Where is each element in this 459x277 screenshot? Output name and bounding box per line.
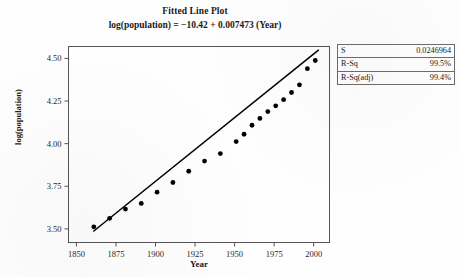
x-tick-label: 1925 <box>187 249 204 259</box>
data-point <box>258 116 263 121</box>
x-tick-label: 1850 <box>68 249 85 259</box>
data-point <box>234 139 239 144</box>
data-point <box>171 180 176 185</box>
y-tick-label: 4.50 <box>47 53 62 63</box>
y-axis-label: log(population) <box>13 77 23 157</box>
data-point <box>297 82 302 87</box>
y-tick-label: 4.00 <box>47 139 62 149</box>
data-point <box>281 97 286 102</box>
stats-value-s: 0.0246964 <box>416 46 451 56</box>
stats-value-rsq: 99.5% <box>430 59 451 69</box>
x-tick-label: 1975 <box>266 249 283 259</box>
stats-label-rsq: R-Sq <box>341 59 358 69</box>
x-tick-label: 2000 <box>305 249 322 259</box>
data-point <box>265 109 270 114</box>
y-tick-label: 4.25 <box>47 96 62 106</box>
data-point <box>202 159 207 164</box>
data-point <box>218 151 223 156</box>
x-tick-label: 1900 <box>147 249 164 259</box>
data-point <box>123 207 128 212</box>
data-point <box>242 132 247 137</box>
data-point <box>289 90 294 95</box>
data-point <box>155 190 160 195</box>
data-point <box>250 123 255 128</box>
statistics-box: S 0.0246964 R-Sq 99.5% R-Sq(adj) 99.4% <box>337 44 455 85</box>
x-tick-label: 1950 <box>226 249 243 259</box>
plot-area: 3.503.754.004.254.50 1850187519001925195… <box>0 0 459 277</box>
fitted-line-plot-svg: 3.503.754.004.254.50 1850187519001925195… <box>0 0 459 277</box>
chart-page: Fitted Line Plot log(population) = −10.4… <box>0 0 459 277</box>
data-point <box>107 216 112 221</box>
plot-frame <box>69 47 330 243</box>
data-point <box>305 66 310 71</box>
data-points <box>91 58 317 229</box>
data-point <box>139 201 144 206</box>
y-axis-ticks: 3.503.754.004.254.50 <box>47 53 69 233</box>
stats-label-rsq-adj: R-Sq(adj) <box>341 73 373 83</box>
stats-row-rsq-adj: R-Sq(adj) 99.4% <box>338 71 454 84</box>
stats-row-rsq: R-Sq 99.5% <box>338 57 454 70</box>
y-tick-label: 3.50 <box>47 224 62 234</box>
stats-value-rsq-adj: 99.4% <box>430 73 451 83</box>
y-tick-label: 3.75 <box>47 181 62 191</box>
fitted-line <box>94 50 319 231</box>
x-tick-label: 1875 <box>107 249 124 259</box>
stats-row-s: S 0.0246964 <box>338 45 454 57</box>
x-axis-ticks: 1850187519001925195019752000 <box>68 243 322 259</box>
data-point <box>273 103 278 108</box>
data-point <box>186 169 191 174</box>
data-point <box>91 224 96 229</box>
x-axis-label: Year <box>68 259 330 269</box>
stats-label-s: S <box>341 46 346 56</box>
data-point <box>313 58 318 63</box>
